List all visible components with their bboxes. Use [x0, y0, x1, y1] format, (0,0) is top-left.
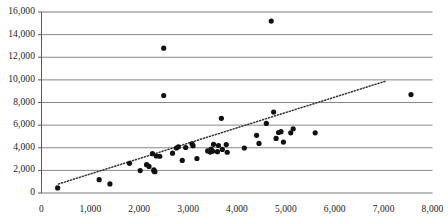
data-point [216, 143, 221, 148]
data-point [219, 116, 224, 121]
y-axis-tick-label: 6,000 [0, 119, 35, 129]
data-point [274, 136, 279, 141]
data-point [161, 46, 166, 51]
x-axis-tick-label: 4,000 [212, 204, 262, 214]
data-point [291, 126, 296, 131]
y-axis-tick-label: 0 [0, 187, 35, 197]
data-point [408, 92, 413, 97]
data-point [264, 121, 269, 126]
data-point [152, 169, 157, 174]
data-point [225, 150, 230, 155]
y-axis-tick-label: 12,000 [0, 51, 35, 61]
data-point [176, 144, 181, 149]
y-axis-tick-label: 16,000 [0, 6, 35, 16]
data-point [269, 18, 274, 23]
data-point [157, 154, 162, 159]
data-point [55, 185, 60, 190]
x-axis-tick-label: 8,000 [408, 204, 448, 214]
data-point [190, 143, 195, 148]
data-point [170, 151, 175, 156]
data-point [224, 142, 229, 147]
x-axis-tick-label: 2,000 [114, 204, 164, 214]
data-point [146, 164, 151, 169]
data-point [138, 168, 143, 173]
x-axis-tick-label: 1,000 [65, 204, 115, 214]
data-point [313, 130, 318, 135]
x-axis-tick-label: 6,000 [310, 204, 360, 214]
data-point [161, 93, 166, 98]
y-axis-tick-label: 4,000 [0, 142, 35, 152]
y-axis-tick-label: 8,000 [0, 97, 35, 107]
x-axis-tick-label: 3,000 [163, 204, 213, 214]
data-point [194, 156, 199, 161]
data-point [210, 149, 215, 154]
x-axis-tick-label: 0 [17, 204, 67, 214]
series-observations [55, 18, 414, 190]
y-axis-tick-label: 2,000 [0, 164, 35, 174]
data-point [215, 149, 220, 154]
data-point [278, 129, 283, 134]
data-point [107, 181, 112, 186]
data-point [127, 161, 132, 166]
data-point [281, 139, 286, 144]
data-point [220, 147, 225, 152]
y-axis-tick-label: 10,000 [0, 74, 35, 84]
data-point [271, 110, 276, 115]
data-point [256, 141, 261, 146]
data-point [180, 158, 185, 163]
data-point [183, 145, 188, 150]
y-axis-tick-label: 14,000 [0, 29, 35, 39]
trendline [59, 81, 386, 184]
data-point [254, 133, 259, 138]
x-axis-tick-label: 5,000 [261, 204, 311, 214]
x-axis-tick-label: 7,000 [359, 204, 409, 214]
data-point [97, 177, 102, 182]
data-point [242, 145, 247, 150]
data-point [211, 142, 216, 147]
